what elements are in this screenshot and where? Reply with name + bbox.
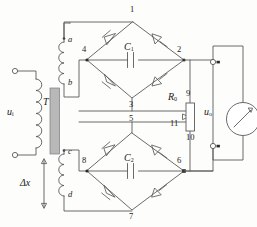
terminal-a-label: a <box>68 35 72 44</box>
node-8-label: 8 <box>82 156 86 165</box>
node-6-label: 6 <box>177 156 181 165</box>
transformer-label: T <box>43 97 49 107</box>
diode-upper-ne <box>152 34 168 47</box>
node-4-label: 4 <box>82 45 86 54</box>
terminal-b-label: b <box>68 78 72 87</box>
diode-bridge-lower <box>85 133 185 210</box>
node-10-label: 10 <box>186 133 195 142</box>
node-2-label: 2 <box>177 45 181 54</box>
diode-lower-sw <box>101 185 115 200</box>
secondary-winding-lower <box>59 149 132 211</box>
input-terminal-top[interactable] <box>12 68 17 73</box>
circuit-diagram-figure: .w{stroke:#5a5a5a;stroke-width:0.9;fill:… <box>0 0 257 227</box>
output-terminal-bottom[interactable] <box>210 143 215 148</box>
diode-upper-se <box>152 73 167 86</box>
capacitor-c2-label: C2 <box>124 153 134 163</box>
displacement-arrow <box>41 159 46 209</box>
input-source-branch <box>12 68 36 157</box>
transformer-core <box>50 88 60 154</box>
node-11-label: 11 <box>170 119 178 128</box>
potentiometer-r0[interactable] <box>186 103 195 131</box>
capacitor-c1-label: C1 <box>124 42 134 52</box>
node-5-label: 5 <box>129 114 133 123</box>
capacitor-c1 <box>128 53 134 68</box>
diode-bridge-upper <box>85 22 185 98</box>
terminal-c-label: c <box>68 147 72 156</box>
output-terminal-top[interactable] <box>210 59 215 64</box>
primary-winding <box>36 79 42 148</box>
node-1-label: 1 <box>130 5 134 14</box>
capacitor-c2 <box>128 164 134 179</box>
input-terminal-bottom[interactable] <box>12 152 17 157</box>
output-network <box>184 46 257 171</box>
node-3-label: 3 <box>129 100 133 109</box>
input-voltage-label: ui <box>7 107 14 117</box>
terminal-d-label: d <box>68 190 72 199</box>
node-9-label: 9 <box>186 89 190 98</box>
diode-upper-sw <box>102 74 116 89</box>
diode-lower-se <box>152 184 167 197</box>
diode-upper-nw <box>102 30 116 45</box>
node-7-label: 7 <box>129 212 133 221</box>
diode-lower-ne <box>152 145 168 158</box>
resistor-r0-label: R0 <box>168 92 177 102</box>
output-voltage-label: uo <box>204 107 212 117</box>
displacement-label: Δx <box>20 178 30 188</box>
